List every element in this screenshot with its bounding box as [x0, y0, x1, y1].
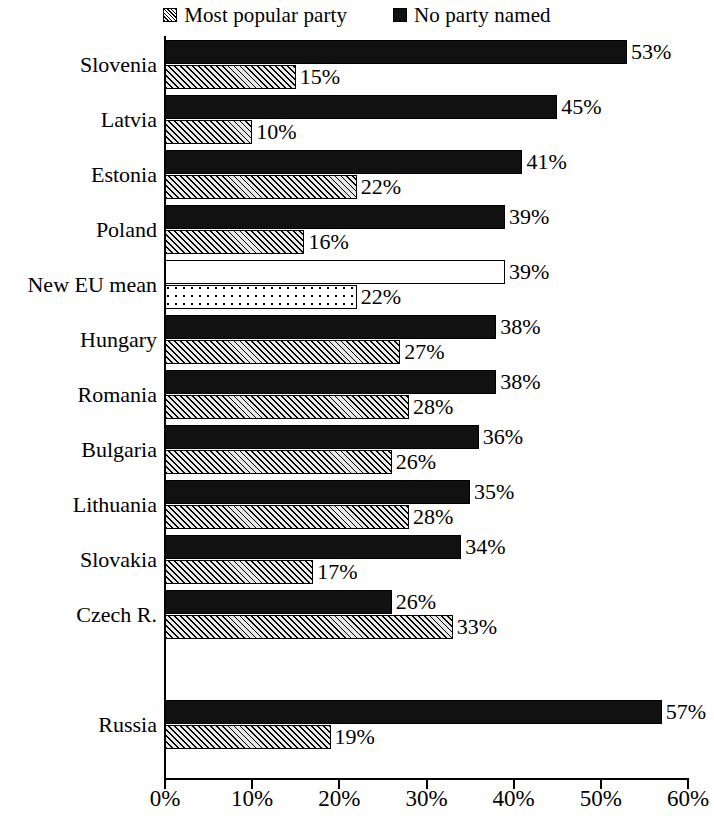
bar-no-party-named: 41% — [165, 150, 522, 174]
bar-group-hungary: 38%27% — [165, 315, 688, 366]
y-axis-label-slovenia: Slovenia — [0, 54, 157, 76]
bar-most-popular-party: 10% — [165, 120, 252, 144]
bar-no-party-named: 45% — [165, 95, 557, 119]
y-axis-label-lithuania: Lithuania — [0, 494, 157, 516]
bar-value-label: 35% — [469, 481, 514, 503]
bar-value-label: 26% — [391, 451, 436, 473]
bar-group-bulgaria: 36%26% — [165, 425, 688, 476]
bar-value-label: 33% — [452, 616, 497, 638]
bar-group-lithuania: 35%28% — [165, 480, 688, 531]
bar-value-label: 22% — [356, 176, 401, 198]
bar-value-label: 27% — [399, 341, 444, 363]
bar-most-popular-party: 22% — [165, 285, 357, 309]
bar-value-label: 39% — [504, 206, 549, 228]
bar-value-label: 45% — [556, 96, 601, 118]
y-axis-label-romania: Romania — [0, 384, 157, 406]
bar-group-russia: 57%19% — [165, 700, 688, 751]
bar-chart: Most popular party No party named Sloven… — [0, 0, 714, 822]
bar-no-party-named: 39% — [165, 260, 505, 284]
bar-group-slovakia: 34%17% — [165, 535, 688, 586]
x-axis-tick-label: 20% — [318, 786, 360, 812]
x-axis-tick-labels: 0%10%20%30%40%50%60% — [0, 786, 714, 820]
solid-square-icon — [393, 8, 407, 22]
bar-group-estonia: 41%22% — [165, 150, 688, 201]
bar-most-popular-party: 15% — [165, 65, 296, 89]
bar-value-label: 28% — [408, 506, 453, 528]
bar-value-label: 38% — [495, 371, 540, 393]
x-axis-tick-label: 30% — [405, 786, 447, 812]
y-axis-label-new-eu-mean: New EU mean — [0, 274, 157, 296]
y-axis-label-latvia: Latvia — [0, 109, 157, 131]
plot-area: 53%15%45%10%41%22%39%16%39%22%38%27%38%2… — [165, 36, 688, 778]
y-axis-label-estonia: Estonia — [0, 164, 157, 186]
legend-entry-no-party-named: No party named — [393, 5, 551, 26]
x-axis-tick-label: 50% — [580, 786, 622, 812]
bar-no-party-named: 34% — [165, 535, 461, 559]
bar-most-popular-party: 17% — [165, 560, 313, 584]
bar-value-label: 39% — [504, 261, 549, 283]
bar-value-label: 26% — [391, 591, 436, 613]
bar-most-popular-party: 28% — [165, 395, 409, 419]
legend-label-most-popular-party: Most popular party — [184, 5, 347, 26]
bar-most-popular-party: 28% — [165, 505, 409, 529]
bar-group-new-eu-mean: 39%22% — [165, 260, 688, 311]
bar-most-popular-party: 22% — [165, 175, 357, 199]
y-axis-label-russia: Russia — [0, 714, 157, 736]
legend-label-no-party-named: No party named — [414, 5, 551, 26]
bar-value-label: 10% — [251, 121, 296, 143]
bar-value-label: 28% — [408, 396, 453, 418]
bar-value-label: 16% — [303, 231, 348, 253]
bar-most-popular-party: 19% — [165, 725, 331, 749]
bar-value-label: 57% — [661, 701, 706, 723]
legend-entry-most-popular-party: Most popular party — [163, 5, 347, 26]
y-axis-label-slovakia: Slovakia — [0, 549, 157, 571]
bar-group-czech-r: 26%33% — [165, 590, 688, 641]
y-axis-category-labels: SloveniaLatviaEstoniaPolandNew EU meanHu… — [0, 36, 157, 778]
bar-value-label: 36% — [478, 426, 523, 448]
bar-group-romania: 38%28% — [165, 370, 688, 421]
x-axis-tick-label: 10% — [231, 786, 273, 812]
y-axis-label-poland: Poland — [0, 219, 157, 241]
bar-no-party-named: 39% — [165, 205, 505, 229]
bar-value-label: 41% — [521, 151, 566, 173]
bar-value-label: 22% — [356, 286, 401, 308]
bar-no-party-named: 36% — [165, 425, 479, 449]
bar-group-slovenia: 53%15% — [165, 40, 688, 91]
bar-no-party-named: 38% — [165, 315, 496, 339]
bar-most-popular-party: 26% — [165, 450, 392, 474]
bar-value-label: 15% — [295, 66, 340, 88]
bar-most-popular-party: 16% — [165, 230, 304, 254]
x-axis-tick-label: 60% — [667, 786, 709, 812]
bar-value-label: 17% — [312, 561, 357, 583]
bar-group-poland: 39%16% — [165, 205, 688, 256]
bar-value-label: 53% — [626, 41, 671, 63]
bar-value-label: 38% — [495, 316, 540, 338]
chart-legend: Most popular party No party named — [0, 0, 714, 30]
bar-no-party-named: 26% — [165, 590, 392, 614]
bar-value-label: 34% — [460, 536, 505, 558]
x-axis-tick-label: 40% — [493, 786, 535, 812]
y-axis-label-czech-r: Czech R. — [0, 604, 157, 626]
bar-no-party-named: 53% — [165, 40, 627, 64]
bar-no-party-named: 38% — [165, 370, 496, 394]
bar-most-popular-party: 33% — [165, 615, 453, 639]
bar-group-latvia: 45%10% — [165, 95, 688, 146]
bar-most-popular-party: 27% — [165, 340, 400, 364]
x-axis-tick-label: 0% — [150, 786, 181, 812]
bar-no-party-named: 57% — [165, 700, 662, 724]
hatched-square-icon — [163, 8, 177, 22]
y-axis-label-hungary: Hungary — [0, 329, 157, 351]
y-axis-label-bulgaria: Bulgaria — [0, 439, 157, 461]
bar-no-party-named: 35% — [165, 480, 470, 504]
bar-value-label: 19% — [330, 726, 375, 748]
